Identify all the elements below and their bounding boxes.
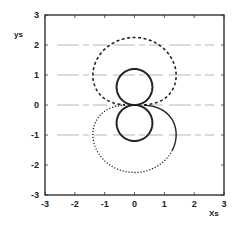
y-axis-label: ys — [14, 30, 23, 39]
x-tick-label: 0 — [132, 199, 137, 209]
x-tick-label: -3 — [41, 199, 49, 209]
outer-lower-lobe-dotted-curve — [93, 105, 172, 172]
x-tick-label: 3 — [221, 199, 226, 209]
x-tick-label: -2 — [71, 199, 79, 209]
y-tick-label: -1 — [31, 130, 39, 140]
y-tick-labels: -3-2-10123 — [31, 10, 39, 200]
y-tick-label: 3 — [34, 10, 39, 20]
x-tick-label: -1 — [101, 199, 109, 209]
polar-pattern-chart: -3-2-10123 -3-2-10123 ys Xs — [0, 0, 239, 231]
y-tick-label: 1 — [34, 70, 39, 80]
x-tick-label: 2 — [192, 199, 197, 209]
gridlines — [57, 45, 214, 135]
outer-upper-lobe-curve — [93, 38, 176, 105]
x-axis-label: Xs — [209, 209, 219, 218]
x-tick-label: 1 — [162, 199, 167, 209]
y-tick-label: 0 — [34, 100, 39, 110]
y-tick-label: -2 — [31, 160, 39, 170]
y-tick-label: 2 — [34, 40, 39, 50]
y-tick-label: -3 — [31, 190, 39, 200]
x-tick-labels: -3-2-10123 — [41, 199, 227, 209]
